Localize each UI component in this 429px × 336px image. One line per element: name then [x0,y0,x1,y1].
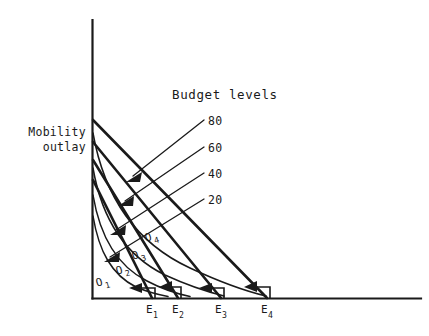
budget-level-label-80: 80 [208,114,222,128]
curve-label-o1: O 1 [94,274,111,293]
figure-canvas: Budget levels Mobility outlay 80 60 40 2… [0,0,429,336]
budget-level-label-60: 60 [208,141,222,155]
budget-level-label-40: 40 [208,167,222,181]
leader-arrowhead-60 [118,196,134,206]
x-tick-label-e3: E 3 [215,303,227,320]
x-tick-label-e4: E 4 [261,303,273,320]
budget-level-label-20: 20 [208,193,222,207]
curve-label-o4-subscript: 4 [153,234,161,245]
x-tick-label-e3-subscript: 3 [222,310,227,320]
curve-label-o2-letter: O [114,263,124,277]
x-tick-label-e2: E 2 [172,303,184,320]
curve-label-o1-letter: O [94,275,104,289]
x-tick-label-e1: E 1 [146,303,158,320]
x-tick-label-e4-letter: E [261,303,268,316]
x-tick-label-e2-letter: E [172,303,179,316]
budget-levels-title: Budget levels [172,87,278,102]
leader-arrowhead-80 [126,172,142,182]
x-tick-label-e1-subscript: 1 [153,310,158,320]
x-tick-label-e3-letter: E [215,303,222,316]
budget-levels-diagram: Budget levels Mobility outlay 80 60 40 2… [0,0,429,336]
x-tick-label-e1-letter: E [146,303,153,316]
x-tick-label-e4-subscript: 4 [268,310,273,320]
y-axis-label-line2: outlay [43,140,86,154]
leader-line-80 [133,120,204,176]
y-axis-label-line1: Mobility [28,125,86,139]
x-tick-label-e2-subscript: 2 [179,310,184,320]
curve-label-o1-subscript: 1 [104,279,112,290]
curve-label-o3-subscript: 3 [140,252,148,263]
